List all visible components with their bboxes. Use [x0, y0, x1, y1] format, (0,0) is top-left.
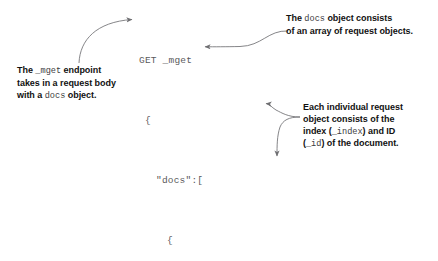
annotation-text: object consists: [325, 13, 392, 23]
inline-code: _index: [332, 127, 363, 137]
annotation-line: index (_index) and ID: [303, 126, 403, 139]
annotation-line: with a docs object.: [17, 90, 116, 103]
annotation-line: (_id) of the document.: [303, 138, 403, 151]
arrow-mget-to-get: [79, 20, 132, 64]
code-line: {: [139, 111, 290, 131]
inline-code: _mget: [35, 66, 61, 76]
annotation-line: takes in a request body: [17, 78, 116, 90]
annotation-text: ) and ID: [363, 126, 396, 136]
inline-code: docs: [304, 14, 325, 24]
annotation-request-object: Each individual request object consists …: [303, 102, 403, 151]
annotation-text: endpoint: [61, 65, 101, 75]
annotation-line: Each individual request: [303, 102, 403, 114]
annotation-docs-object: The docs object consists of an array of …: [286, 13, 413, 38]
code-line: "docs":[: [139, 171, 290, 191]
annotation-line: object consists of the: [303, 114, 403, 126]
annotation-text: The: [286, 13, 304, 23]
inline-code: _id: [306, 139, 321, 149]
annotation-line: of an array of request objects.: [286, 26, 413, 38]
annotation-text: object.: [65, 90, 96, 100]
code-line: {: [139, 231, 290, 251]
annotation-text: The: [17, 65, 35, 75]
inline-code: docs: [45, 91, 66, 101]
annotation-mget-endpoint: The _mget endpoint takes in a request bo…: [17, 65, 116, 102]
annotation-text: index (: [303, 126, 332, 136]
annotation-line: The _mget endpoint: [17, 65, 116, 78]
annotation-text: ) of the document.: [321, 138, 398, 148]
annotation-line: The docs object consists: [286, 13, 413, 26]
code-line: GET _mget: [139, 51, 290, 71]
code-block: GET _mget { "docs":[ { "_index":"index_1…: [139, 11, 290, 261]
annotation-text: with a: [17, 90, 45, 100]
